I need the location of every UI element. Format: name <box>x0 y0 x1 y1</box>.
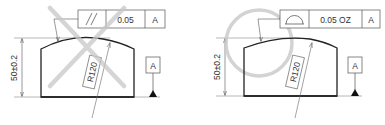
left-drawing: 50±0.2 0.05 A R120 A <box>9 8 166 118</box>
datum-label: A <box>352 61 358 71</box>
dimension-text: 50±0.2 <box>212 54 222 80</box>
gdt-comparison-diagram: 50±0.2 0.05 A R120 A <box>0 0 385 125</box>
feature-control-frame: 0.05 OZ A <box>280 10 380 28</box>
radius-label: R120 <box>288 61 302 83</box>
datum-triangle-icon <box>149 90 157 97</box>
dimension-text: 50±0.2 <box>9 55 19 81</box>
datum-feature-symbol: A <box>146 57 160 97</box>
datum-reference: A <box>368 15 374 25</box>
datum-triangle-icon <box>351 89 359 96</box>
radius-label: R120 <box>85 61 99 83</box>
tolerance-value: 0.05 <box>117 15 134 25</box>
tolerance-value: 0.05 OZ <box>320 15 351 25</box>
right-drawing: 50±0.2 0.05 OZ A R120 A <box>212 10 381 118</box>
datum-feature-symbol: A <box>348 57 362 96</box>
datum-label: A <box>150 61 156 71</box>
datum-reference: A <box>152 15 158 25</box>
